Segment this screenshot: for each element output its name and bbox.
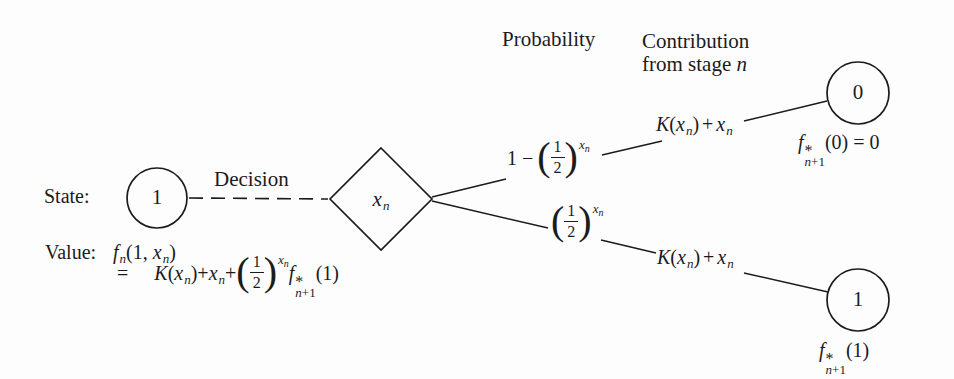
fstar-stack: *n+1 [826, 354, 846, 376]
left-paren: ( [537, 134, 550, 179]
plus-token: + [197, 262, 208, 284]
bottom-outcome-value: 1 [828, 287, 888, 311]
exponent-xn: xn [278, 252, 289, 269]
half-fraction: 12 [551, 139, 565, 176]
state-node-value: 1 [127, 185, 187, 209]
fraction-denominator: 2 [250, 273, 264, 291]
right-paren: ) [565, 134, 578, 179]
state-label: State: [44, 184, 90, 208]
left-paren: ( [551, 198, 564, 243]
contribution-header-stage-var: n [736, 52, 747, 76]
right-paren: ) [264, 249, 277, 294]
top-branch-probability: 1 −(12)xn [507, 137, 590, 183]
x-var: x [677, 246, 686, 268]
plus-one-token: +1 [832, 362, 846, 377]
subscript-n-plus-1: n+1 [805, 156, 825, 168]
exponent-xn: xn [579, 137, 590, 154]
upper-branch-edge-segment-2 [602, 141, 662, 155]
left-paren: ( [669, 113, 676, 135]
half-fraction: 12 [250, 254, 264, 291]
n-subscript: n [726, 123, 733, 138]
contribution-header: Contribution from stage n [642, 30, 749, 76]
fraction-numerator: 1 [551, 139, 565, 158]
contribution-header-line1: Contribution [642, 30, 749, 53]
decision-dashed-edge [189, 198, 328, 199]
upper-branch-edge-segment-3 [744, 101, 827, 121]
bottom-branch-contribution: K(xn)+xn [657, 245, 734, 276]
fstar-stack: *n+1 [295, 277, 315, 299]
figure-canvas: Probability Contribution from stage n St… [0, 0, 954, 379]
exponent-n: n [598, 207, 603, 218]
one-minus-token: 1 − [507, 147, 533, 169]
lower-branch-edge-segment-3 [744, 273, 828, 292]
right-paren: ) [693, 246, 700, 268]
value-label: Value: [45, 240, 96, 264]
decision-variable: xn [351, 187, 411, 218]
x-var: x [209, 262, 218, 284]
decision-variable-subscript: n [383, 198, 390, 213]
left-paren: ( [236, 249, 249, 294]
equals-token: = [853, 131, 864, 153]
plus-token: + [225, 262, 236, 284]
n-subscript: n [727, 256, 734, 271]
x-var: x [676, 113, 685, 135]
fraction-numerator: 1 [250, 254, 264, 273]
f-var: f [819, 339, 825, 361]
k-term: K [656, 113, 669, 135]
fraction-numerator: 1 [564, 203, 578, 222]
plus-one-token: +1 [811, 154, 825, 169]
decision-variable-base: x [373, 187, 382, 211]
right-paren: ) [578, 198, 591, 243]
fraction-denominator: 2 [551, 158, 565, 176]
left-paren: ( [670, 246, 677, 268]
subscript-n-plus-1: n+1 [295, 287, 315, 299]
plus-token: + [702, 113, 713, 135]
arg-one-token: (1) [316, 262, 339, 284]
value-expression-line2: =K(xn)+xn+(12)xnf*n+1(1) [117, 254, 339, 300]
f-var: f [289, 262, 295, 284]
top-outcome-future-value: f*n+1(0)=0 [798, 130, 880, 168]
decision-label: Decision [214, 167, 289, 191]
k-term: K [657, 246, 670, 268]
plus-token: + [703, 246, 714, 268]
fstar-stack: *n+1 [805, 146, 825, 168]
bottom-outcome-future-value: f*n+1(1) [819, 338, 869, 376]
x-var: x [717, 246, 726, 268]
zero-token: 0 [870, 131, 880, 153]
fraction-denominator: 2 [564, 222, 578, 240]
exponent-n: n [284, 258, 289, 269]
lower-branch-edge-segment-2 [601, 240, 656, 253]
contribution-header-line2: from stage n [642, 53, 749, 76]
top-outcome-value: 0 [828, 80, 888, 104]
contribution-header-line2-text: from stage [642, 52, 736, 76]
half-fraction: 12 [564, 203, 578, 240]
equals-token: = [117, 262, 128, 284]
exponent-xn: xn [593, 201, 604, 218]
x-var: x [716, 113, 725, 135]
top-branch-contribution: K(xn)+xn [656, 112, 733, 143]
arg-one-token: (1) [846, 339, 869, 361]
probability-header: Probability [502, 28, 595, 51]
f-var: f [798, 131, 804, 153]
x-var: x [174, 262, 183, 284]
k-term: K [154, 262, 167, 284]
lower-branch-edge-segment-1 [432, 201, 548, 228]
bottom-branch-probability: (12)xn [551, 201, 603, 247]
right-paren: ) [692, 113, 699, 135]
arg-zero-token: (0) [825, 131, 848, 153]
exponent-n: n [585, 143, 590, 154]
upper-branch-edge-segment-1 [432, 179, 506, 197]
subscript-n-plus-1: n+1 [826, 364, 846, 376]
plus-one-token: +1 [302, 285, 316, 300]
